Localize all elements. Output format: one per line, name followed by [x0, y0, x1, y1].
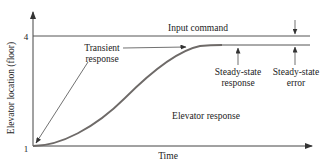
y-tick-1: 1 — [24, 144, 29, 154]
x-axis-label: Time — [158, 151, 178, 161]
input-command-label: Input command — [168, 23, 228, 33]
transient-label-line2: response — [85, 54, 118, 64]
y-tick-4: 4 — [24, 32, 29, 42]
steady-state-response-label-line2: response — [221, 78, 254, 88]
steady-state-error-label-line2: error — [287, 78, 306, 88]
elevator-response-curve — [33, 45, 222, 146]
transient-pointer-to-start — [36, 62, 88, 143]
transient-pointer-to-curve — [123, 47, 186, 48]
elevator-response-label: Elevator response — [172, 111, 240, 121]
y-axis-label: Elevator location (floor) — [6, 42, 17, 134]
transient-label-line1: Transient — [84, 43, 120, 53]
elevator-response-diagram: 4 1 Elevator location (floor) Time Input… — [0, 0, 324, 163]
steady-state-error-label-line1: Steady-state — [273, 67, 319, 77]
steady-state-response-label-line1: Steady-state — [215, 67, 261, 77]
